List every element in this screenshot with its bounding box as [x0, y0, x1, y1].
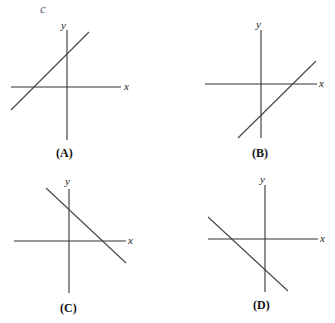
- line-positive-slope: [11, 32, 89, 110]
- x-axis-label: x: [318, 77, 324, 89]
- x-axis-label: x: [319, 232, 325, 244]
- graph-panel-c[interactable]: y x (C): [14, 175, 133, 315]
- line-positive-slope: [238, 61, 316, 138]
- handwritten-mark: c: [40, 1, 46, 16]
- line-negative-slope: [46, 188, 126, 263]
- y-axis-label: y: [60, 19, 66, 31]
- panel-label-a: (A): [56, 146, 73, 160]
- y-axis-label: y: [64, 175, 70, 187]
- panel-label-c: (C): [60, 301, 77, 315]
- y-axis-label: y: [259, 173, 265, 185]
- panel-label-b: (B): [252, 146, 268, 160]
- graph-panel-b[interactable]: y x (B): [205, 18, 324, 160]
- answer-choice-graphs: c y x (A) y x (B) y x (C) y x (D): [0, 0, 335, 323]
- graph-panel-a[interactable]: y x (A): [11, 19, 129, 160]
- graph-panel-d[interactable]: y x (D): [208, 173, 325, 312]
- line-negative-slope: [208, 217, 288, 291]
- panel-label-d: (D): [253, 298, 270, 312]
- y-axis-label: y: [255, 18, 261, 30]
- x-axis-label: x: [123, 80, 129, 92]
- x-axis-label: x: [127, 234, 133, 246]
